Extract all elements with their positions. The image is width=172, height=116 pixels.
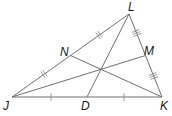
label-n: N <box>60 45 69 59</box>
triangle-diagram: L N M J D K <box>0 0 172 116</box>
label-j: J <box>2 99 10 113</box>
median-ld <box>87 14 129 97</box>
median-jm <box>12 56 146 98</box>
label-d: D <box>81 99 90 113</box>
label-l: L <box>128 0 135 14</box>
label-m: M <box>144 44 154 58</box>
label-k: K <box>160 99 169 113</box>
